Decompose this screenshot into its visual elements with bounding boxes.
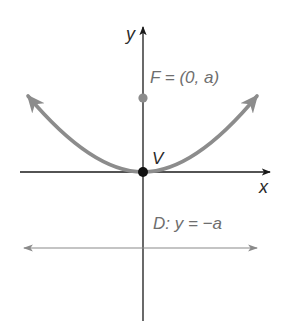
focus-label: F = (0, a) xyxy=(150,68,219,87)
directrix-label: D: y = −a xyxy=(153,214,222,233)
vertex-label: V xyxy=(152,149,165,168)
vertex-point xyxy=(138,167,148,177)
x-axis-label: x xyxy=(258,177,269,197)
parabola-diagram: y F = (0, a) V x D: y = −a xyxy=(0,0,293,331)
focus-point xyxy=(138,93,147,102)
y-axis-label: y xyxy=(124,24,136,44)
